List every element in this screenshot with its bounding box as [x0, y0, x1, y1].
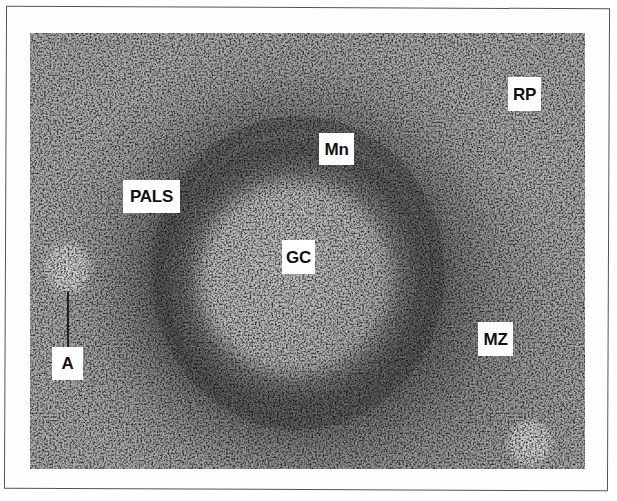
arteriole-pointer-line: [67, 292, 69, 347]
label-gc: GC: [282, 240, 315, 274]
label-mn: Mn: [319, 133, 354, 165]
label-mz: MZ: [478, 322, 513, 356]
label-a: A: [52, 347, 83, 380]
label-rp: RP: [508, 77, 541, 111]
label-pals: PALS: [123, 180, 180, 213]
